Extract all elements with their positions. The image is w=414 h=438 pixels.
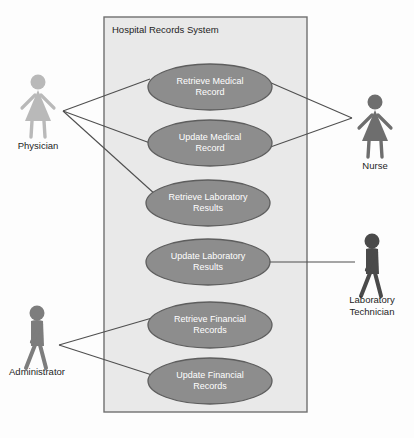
use-case-update-financial-records[interactable]: Update FinancialRecords: [148, 358, 272, 404]
use-case-label: Records: [193, 381, 227, 391]
diagram-svg: Hospital Records System Retrieve Medical…: [0, 0, 414, 438]
use-case-label: Retrieve Laboratory: [168, 192, 248, 202]
use-case-label: Results: [193, 203, 224, 213]
system-boundary-title: Hospital Records System: [112, 24, 219, 35]
use-case-label: Results: [193, 262, 224, 272]
use-case-update-medical-record[interactable]: Update MedicalRecord: [148, 120, 272, 166]
actor-figure-icon: [359, 95, 391, 158]
use-case-label: Retrieve Medical: [176, 76, 243, 86]
use-case-retrieve-laboratory-results[interactable]: Retrieve LaboratoryResults: [146, 180, 270, 226]
actor-label: Physician: [18, 140, 59, 151]
actor-label: Administrator: [9, 366, 65, 377]
actor-label: Laboratory: [349, 294, 395, 305]
use-case-label: Records: [193, 325, 227, 335]
use-case-retrieve-financial-records[interactable]: Retrieve FinancialRecords: [148, 302, 272, 348]
use-case-retrieve-medical-record[interactable]: Retrieve MedicalRecord: [148, 64, 272, 110]
actor-nurse[interactable]: Nurse: [359, 95, 391, 172]
actor-physician[interactable]: Physician: [18, 75, 59, 152]
actor-label: Technician: [350, 306, 395, 317]
use-case-label: Record: [195, 143, 224, 153]
use-case-label: Update Financial: [176, 370, 244, 380]
actor-administrator[interactable]: Administrator: [9, 306, 65, 378]
actor-figure-icon: [26, 306, 46, 369]
actor-label: Nurse: [362, 160, 387, 171]
use-case-label: Update Medical: [179, 132, 242, 142]
actor-figure-icon: [22, 75, 54, 138]
actor-figure-icon: [361, 234, 381, 297]
use-case-update-laboratory-results[interactable]: Update LaboratoryResults: [146, 239, 270, 285]
use-case-label: Retrieve Financial: [174, 314, 246, 324]
use-case-label: Update Laboratory: [171, 251, 246, 261]
actor-laboratory-technician[interactable]: LaboratoryTechnician: [349, 234, 395, 318]
use-case-diagram-canvas: Hospital Records System Retrieve Medical…: [0, 0, 414, 438]
use-case-label: Record: [195, 87, 224, 97]
